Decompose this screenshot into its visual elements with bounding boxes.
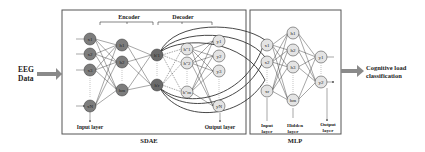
sdae-code-layer: h'1 h'r [151, 49, 163, 91]
svg-text:y1: y1 [217, 39, 223, 44]
svg-text:x1: x1 [265, 43, 271, 48]
svg-text:y2: y2 [217, 54, 223, 59]
svg-text:x2: x2 [88, 52, 94, 57]
mlp-input-layer-label-line2: layer [262, 129, 274, 134]
sdae-output-node: y2 [213, 50, 225, 62]
eeg-data-label-line2: Data [18, 74, 34, 83]
mlp-output-layer: y1 y2 [315, 51, 327, 88]
sdae-hidden-layer: h1 h2 hm [116, 39, 128, 96]
sdae-output-node: y3 [213, 65, 225, 77]
svg-text:yN: yN [216, 104, 223, 109]
mlp-output-layer-label-line1: Output [320, 122, 336, 127]
sdae-hidden-node: h2 [116, 56, 128, 68]
sdae-input-node: xN [84, 100, 96, 112]
mlp-hidden-node: hm [287, 94, 299, 106]
sdae-input-node: x1 [84, 33, 96, 45]
sdae-decoded-node: h"1 [181, 43, 193, 55]
decoder-label: Decoder [172, 14, 194, 20]
svg-text:h'r: h'r [154, 83, 159, 88]
svg-text:xr: xr [265, 89, 270, 94]
svg-text:h2: h2 [120, 60, 126, 65]
mlp-hidden-layer-label-line1: Hidden [287, 123, 303, 128]
mlp-input-node: x1 [261, 39, 273, 51]
mlp-hidden-node: h3 [287, 61, 299, 73]
svg-text:y1: y1 [319, 55, 325, 60]
mlp-output-node: y1 [315, 51, 327, 63]
encoder-bracket [100, 22, 153, 25]
mlp-hidden-node: h1 [287, 27, 299, 39]
mlp-input-layer: x1 x2 xr [261, 39, 273, 97]
svg-text:hm: hm [290, 98, 297, 103]
svg-text:h"2: h"2 [183, 61, 191, 66]
svg-text:xN: xN [87, 104, 94, 109]
svg-text:h3: h3 [291, 65, 297, 70]
input-arrow-icon [37, 68, 62, 80]
output-arrow-icon [341, 65, 364, 77]
mlp-output-node: y2 [315, 76, 327, 88]
mlp-hidden-layer: h1 h2 h3 hm [287, 27, 299, 106]
svg-text:x2: x2 [265, 60, 271, 65]
mlp-title: MLP [288, 137, 302, 144]
sdae-code-node: h'r [151, 79, 163, 91]
svg-text:x3: x3 [88, 68, 94, 73]
svg-text:h"1: h"1 [183, 47, 191, 52]
sdae-decoded-node: h"m [181, 86, 193, 98]
sdae-output-node: y1 [213, 35, 225, 47]
svg-text:h2: h2 [291, 48, 297, 53]
svg-text:x1: x1 [88, 37, 94, 42]
sdae-input-layer: x1 x2 x3 xN [84, 33, 96, 112]
sdae-input-layer-label: Input layer [77, 124, 104, 130]
svg-text:y2: y2 [319, 80, 325, 85]
mlp-hidden-layer-label-line2: layer [288, 129, 300, 134]
svg-text:h'1: h'1 [154, 53, 160, 58]
sdae-decoded-node: h"2 [181, 57, 193, 69]
decoder-bracket [158, 22, 212, 25]
sdae-title: SDAE [140, 137, 157, 144]
svg-text:h1: h1 [291, 31, 297, 36]
svg-text:hm: hm [119, 88, 126, 93]
sdae-output-layer-label: Output layer [205, 124, 236, 130]
mlp-hidden-node: h2 [287, 44, 299, 56]
mlp-output-layer-label-line2: layer [323, 128, 335, 133]
sdae-output-node: yN [213, 100, 225, 112]
mlp-input-node: xr [261, 85, 273, 97]
sdae-hidden-node: h1 [116, 39, 128, 51]
sdae-connections [76, 39, 220, 122]
sdae-mlp-architecture-diagram: EEG Data SDAE Encoder Decoder [0, 0, 425, 152]
svg-text:h"m: h"m [183, 90, 192, 95]
sdae-input-node: x3 [84, 64, 96, 76]
svg-text:h1: h1 [120, 43, 126, 48]
mlp-input-layer-label-line1: Input [261, 123, 273, 128]
sdae-decoded-layer: h"1 h"2 h"m [181, 43, 193, 98]
mlp-input-node: x2 [261, 56, 273, 68]
sdae-input-node: x2 [84, 48, 96, 60]
eeg-data-label-line1: EEG [18, 65, 34, 74]
sdae-code-node: h'1 [151, 49, 163, 61]
sdae-hidden-node: hm [116, 84, 128, 96]
svg-text:y3: y3 [217, 69, 223, 74]
output-label-line2: classification [366, 72, 402, 79]
encoder-label: Encoder [118, 14, 140, 20]
output-label-line1: Cognitive load [366, 64, 407, 71]
